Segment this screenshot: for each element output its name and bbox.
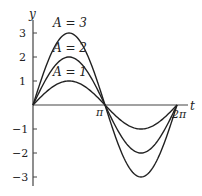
y-tick-label-3: 3 [19,27,26,40]
y-tick-label-neg1: −1 [12,123,28,136]
annotation-a1: A = 1 [52,65,87,79]
y-axis-label: y [28,7,36,21]
y-tick-label-2: 2 [19,51,26,64]
x-tick-label-pi: π [95,106,104,119]
annotation-a2: A = 2 [52,41,87,55]
y-tick-label-neg3: −3 [12,171,28,184]
x-axis-label: t [190,99,195,113]
sine-chart: y t 3 2 1 −1 −2 −3 π 2π A = 3 A = 2 A = … [0,0,202,196]
y-tick-label-neg2: −2 [12,147,28,160]
annotation-a3: A = 3 [52,16,87,30]
y-tick-label-1: 1 [19,75,26,88]
